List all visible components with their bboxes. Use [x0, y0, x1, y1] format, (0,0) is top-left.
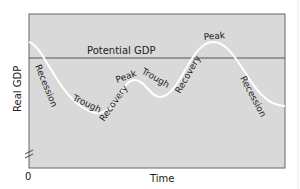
business-cycle-diagram: Potential GDP Recession Trough Recovery … — [0, 0, 300, 189]
y-axis-label: Real GDP — [12, 66, 23, 112]
potential-gdp-label: Potential GDP — [87, 45, 155, 56]
x-axis-label: Time — [149, 173, 174, 184]
label-peak-2: Peak — [203, 30, 226, 42]
origin-label: 0 — [25, 171, 31, 182]
